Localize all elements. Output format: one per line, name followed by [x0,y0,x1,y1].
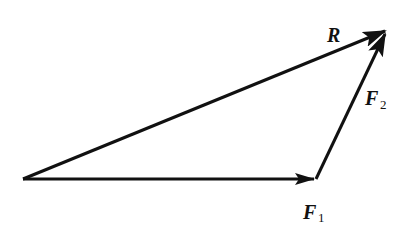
label-f1: F [302,201,317,223]
label-f2: F [364,87,379,109]
label-f2-subscript: 2 [380,97,387,112]
vector-r-arrow [23,31,385,179]
label-f1-subscript: 1 [318,210,325,225]
vector-diagram: R F 2 F 1 [0,0,408,226]
label-r: R [326,24,340,46]
